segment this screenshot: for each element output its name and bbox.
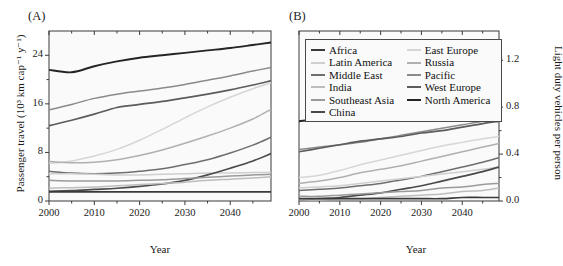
legend-label: Latin America bbox=[329, 56, 392, 68]
y-tick-label: 24 bbox=[13, 48, 43, 59]
legend-item[interactable]: Africa bbox=[311, 44, 400, 56]
x-tick-label: 2020 bbox=[120, 207, 160, 218]
legend-label: East Europe bbox=[425, 44, 478, 56]
legend-label: West Europe bbox=[425, 81, 481, 93]
legend-item[interactable]: West Europe bbox=[407, 81, 496, 93]
x-axis-label-b: Year bbox=[371, 243, 461, 255]
y-tick-label: 8 bbox=[13, 145, 43, 156]
legend-column-1: AfricaLatin AmericaMiddle EastIndiaSouth… bbox=[311, 44, 400, 118]
legend-swatch-line-icon bbox=[311, 86, 325, 88]
legend-label: India bbox=[329, 81, 352, 93]
x-tick-label: 2020 bbox=[361, 207, 401, 218]
legend-label: Southeast Asia bbox=[329, 94, 394, 106]
legend-swatch-line-icon bbox=[311, 99, 325, 101]
y-tick-label: 1.2 bbox=[506, 53, 538, 64]
legend-item[interactable]: China bbox=[311, 106, 400, 118]
legend-label: Middle East bbox=[329, 69, 382, 81]
legend-label: North America bbox=[425, 94, 491, 106]
y-tick-label: 0.4 bbox=[506, 147, 538, 158]
legend-item[interactable]: Pacific bbox=[407, 69, 496, 81]
legend-item[interactable]: Southeast Asia bbox=[311, 94, 400, 106]
y-tick-label: 16 bbox=[13, 97, 43, 108]
legend-item[interactable]: Russia bbox=[407, 56, 496, 68]
legend-swatch-line-icon bbox=[407, 86, 421, 88]
figure-root: (A) Passenger travel (10³ km cap⁻¹ y⁻¹) … bbox=[0, 0, 563, 266]
legend: AfricaLatin AmericaMiddle EastIndiaSouth… bbox=[305, 39, 502, 122]
x-tick-label: 2030 bbox=[401, 207, 441, 218]
legend-swatch-line-icon bbox=[311, 74, 325, 76]
legend-swatch-line-icon bbox=[407, 99, 421, 101]
legend-item[interactable]: Middle East bbox=[311, 69, 400, 81]
x-tick-label: 2040 bbox=[442, 207, 482, 218]
legend-swatch-line-icon bbox=[311, 49, 325, 51]
legend-swatch-line-icon bbox=[407, 49, 421, 51]
x-tick-label: 2010 bbox=[74, 207, 114, 218]
legend-item[interactable]: Latin America bbox=[311, 56, 400, 68]
legend-swatch-line-icon bbox=[311, 111, 325, 113]
y-tick-label: 0.8 bbox=[506, 100, 538, 111]
legend-column-2: East EuropeRussiaPacificWest EuropeNorth… bbox=[407, 44, 496, 118]
legend-label: Russia bbox=[425, 56, 454, 68]
x-tick-label: 2030 bbox=[165, 207, 205, 218]
x-tick-label: 2000 bbox=[279, 207, 319, 218]
legend-swatch-line-icon bbox=[407, 62, 421, 64]
legend-label: Pacific bbox=[425, 69, 456, 81]
x-tick-label: 2000 bbox=[29, 207, 69, 218]
legend-label: China bbox=[329, 106, 355, 118]
legend-swatch-line-icon bbox=[311, 62, 325, 64]
legend-swatch-line-icon bbox=[407, 74, 421, 76]
y-tick-label: 0.0 bbox=[506, 194, 538, 205]
legend-item[interactable]: North America bbox=[407, 94, 496, 106]
y-tick-label: 0 bbox=[13, 194, 43, 205]
legend-item[interactable]: East Europe bbox=[407, 44, 496, 56]
legend-item[interactable]: India bbox=[311, 81, 400, 93]
legend-label: Africa bbox=[329, 44, 357, 56]
x-tick-label: 2040 bbox=[210, 207, 250, 218]
x-tick-label: 2010 bbox=[320, 207, 360, 218]
